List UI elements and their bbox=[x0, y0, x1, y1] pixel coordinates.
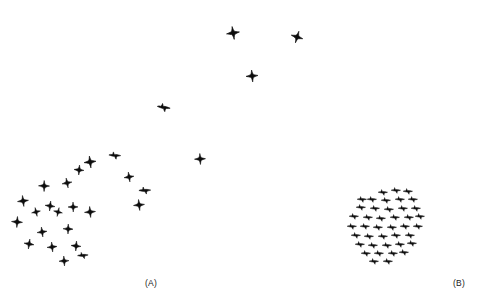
panel-label-b: (B) bbox=[453, 278, 465, 288]
panel-label-a: (A) bbox=[145, 278, 157, 288]
figure-root: (A) (B) bbox=[0, 0, 493, 301]
flock-scatter-canvas bbox=[0, 0, 493, 301]
figure-background bbox=[0, 0, 493, 301]
